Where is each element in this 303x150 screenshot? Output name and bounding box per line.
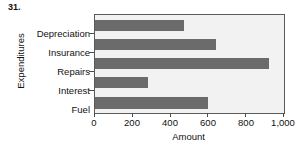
- bar-chart-figure: 31. Expenditures Depreciation Insurance …: [0, 0, 303, 150]
- x-tick-label: 600: [200, 117, 216, 129]
- category-label-interest: Interest: [26, 85, 90, 96]
- bar-insurance: [95, 39, 216, 50]
- x-tick-label: 400: [162, 117, 178, 129]
- category-label-insurance: Insurance: [26, 47, 90, 58]
- x-tick-label: 800: [238, 117, 254, 129]
- bar-fuel: [95, 97, 208, 109]
- x-tick-label: 200: [124, 117, 140, 129]
- x-tick-label: 1,000: [271, 117, 295, 129]
- bar-depreciation: [95, 20, 184, 31]
- x-tick-label: 0: [91, 117, 96, 129]
- category-label-depreciation: Depreciation: [26, 28, 90, 39]
- category-label-fuel: Fuel: [26, 104, 90, 115]
- plot-area: [94, 14, 285, 114]
- x-axis-tick-labels: 0 200 400 600 800 1,000: [0, 117, 303, 131]
- bar-repairs: [95, 58, 269, 69]
- category-axis-labels: Depreciation Insurance Repairs Interest …: [26, 14, 92, 112]
- bar-interest: [95, 77, 148, 88]
- category-label-repairs: Repairs: [26, 66, 90, 77]
- bars-container: [95, 15, 284, 113]
- y-axis-title: Expenditures: [16, 16, 26, 106]
- problem-number: 31.: [8, 2, 21, 13]
- x-axis-title: Amount: [94, 131, 283, 142]
